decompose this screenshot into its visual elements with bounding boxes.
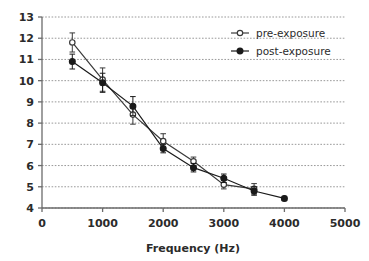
y-tick-label: 5	[26, 181, 34, 194]
x-tick-label: 4000	[269, 217, 300, 230]
y-tick-label: 12	[19, 32, 34, 45]
data-point	[191, 165, 197, 171]
x-tick-label: 0	[38, 217, 46, 230]
y-tick-label: 11	[19, 53, 34, 66]
y-tick-label: 10	[19, 75, 35, 88]
legend-label: pre-exposure	[256, 27, 325, 39]
legend-label: post-exposure	[256, 45, 331, 57]
legend-marker-open-circle-icon	[237, 30, 242, 35]
frequency-audiogram-chart: 45678910111213 010002000300040005000 pre…	[0, 0, 369, 261]
legend-marker-filled-circle-icon	[237, 48, 243, 54]
chart-container: 45678910111213 010002000300040005000 pre…	[0, 0, 369, 261]
data-point	[221, 175, 227, 181]
data-point	[69, 59, 75, 65]
x-tick-label: 1000	[87, 217, 118, 230]
data-point	[100, 80, 106, 86]
x-axis-title: Frequency (Hz)	[146, 242, 240, 255]
y-tick-label: 4	[26, 202, 34, 215]
data-point	[160, 146, 166, 152]
y-tick-label: 8	[26, 117, 34, 130]
data-point	[282, 196, 288, 202]
y-tick-label: 6	[26, 160, 34, 173]
data-point	[251, 188, 257, 194]
x-tick-label: 3000	[208, 217, 239, 230]
y-tick-label: 7	[26, 138, 34, 151]
chart-background	[0, 0, 369, 261]
data-point	[130, 103, 136, 109]
data-point	[161, 138, 166, 143]
y-tick-label: 9	[26, 96, 34, 109]
x-tick-label: 2000	[148, 217, 179, 230]
x-tick-label: 5000	[330, 217, 361, 230]
data-point	[70, 40, 75, 45]
y-tick-label: 13	[19, 11, 34, 24]
